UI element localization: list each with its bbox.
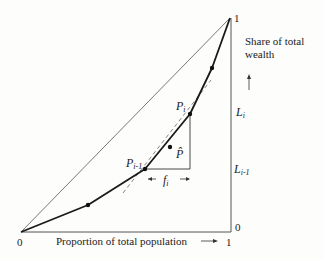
x-tick-0: 0 bbox=[17, 237, 23, 248]
y-axis-arrow-icon bbox=[247, 74, 251, 79]
y-tick-1: 1 bbox=[234, 13, 240, 24]
x-tick-1: 1 bbox=[226, 237, 232, 248]
f-i-label: fi bbox=[163, 174, 169, 188]
curve-point bbox=[86, 203, 90, 207]
curve-point bbox=[210, 66, 214, 70]
y-tick-0: 0 bbox=[235, 222, 241, 233]
x-axis-title: Proportion of total population bbox=[56, 236, 187, 247]
x-axis-arrow-icon bbox=[213, 239, 218, 243]
p-i-label: Pi bbox=[176, 100, 186, 114]
f-left-arrowhead-icon bbox=[148, 177, 152, 181]
point-p-curr bbox=[188, 112, 192, 116]
p-i-1-label: Pi-1 bbox=[126, 157, 142, 171]
p-hat-label: P̂ bbox=[176, 148, 183, 160]
point-p-prev bbox=[143, 167, 147, 171]
l-i-1-label: Li-1 bbox=[234, 163, 250, 177]
f-right-arrowhead-icon bbox=[186, 177, 190, 181]
y-axis-title-line1: Share of total bbox=[245, 36, 304, 47]
y-axis-title-line2: wealth bbox=[245, 49, 274, 60]
lorenz-diagram: 0 1 0 1 Proportion of total population S… bbox=[0, 0, 324, 260]
point-p-hat bbox=[168, 145, 172, 149]
equality-diagonal bbox=[21, 18, 230, 232]
l-i-label: Li bbox=[236, 106, 245, 120]
